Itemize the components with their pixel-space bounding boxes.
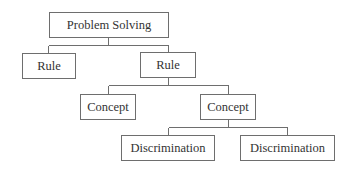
node-rule-left: Rule [22, 53, 76, 79]
node-concept-right: Concept [200, 94, 256, 120]
node-discrimination-left: Discrimination [121, 135, 215, 161]
node-problem-solving: Problem Solving [49, 12, 169, 38]
node-rule-right: Rule [140, 52, 196, 78]
node-concept-left: Concept [80, 94, 136, 120]
node-discrimination-right: Discrimination [240, 135, 335, 161]
